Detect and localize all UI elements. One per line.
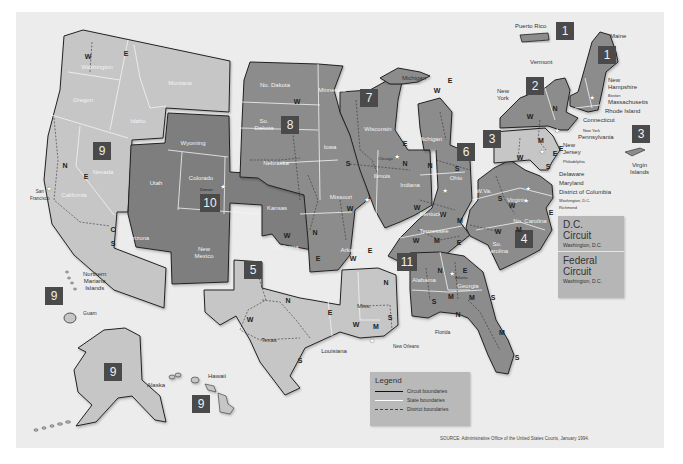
star-cincinnati: ★ <box>442 187 448 195</box>
legend-label-district: District boundaries <box>407 406 448 412</box>
district-marker: W <box>294 98 301 105</box>
state-label-miss: Miss. <box>357 303 371 310</box>
state-label-new-mexico: New Mexico <box>194 246 213 260</box>
district-marker: S <box>546 163 551 170</box>
state-label-california: California <box>61 192 86 199</box>
state-label-tennessee: Tennessee <box>419 228 448 235</box>
legend-row-circuit: Circuit boundaries <box>375 388 470 394</box>
circuit-badge-5[interactable]: 5 <box>244 261 262 279</box>
district-marker: S <box>298 357 303 364</box>
circuit-badge-1-maine[interactable]: 1 <box>598 46 616 64</box>
district-marker: M <box>499 329 505 336</box>
district-marker: S <box>111 240 116 247</box>
circuit-badge-10[interactable]: 10 <box>200 194 220 212</box>
state-label-arizona: Arizona <box>129 235 149 242</box>
district-marker: S <box>346 160 351 167</box>
district-marker: N <box>285 297 290 304</box>
label-northern-mariana: Northern Mariana Islands <box>83 271 106 292</box>
district-marker: W <box>495 228 502 235</box>
dc-circuit[interactable]: D.C. Circuit Washington, D.C. <box>558 216 624 251</box>
state-label-montana: Montana <box>168 80 191 87</box>
label-district-of-columbia: District of Columbia <box>559 189 611 196</box>
district-marker: E <box>84 173 89 180</box>
circuit-5-region <box>204 260 398 395</box>
circuit-badge-8[interactable]: 8 <box>281 116 299 134</box>
district-line-swatch <box>375 409 403 410</box>
label-puerto-rico: Puerto Rico <box>515 23 546 30</box>
puerto-rico-shape <box>520 33 549 42</box>
legend-label-state: State boundaries <box>407 397 445 403</box>
state-label-colorado: Colorado <box>189 175 213 182</box>
district-marker: E <box>553 150 558 157</box>
district-marker: W <box>413 237 420 244</box>
district-marker: W <box>347 205 354 212</box>
state-label-so-dakota: So. Dakota <box>254 118 273 132</box>
state-label-w-va: W.Va. <box>476 188 492 195</box>
label-atlanta: Atlanta <box>455 274 467 281</box>
label-denver: Denver <box>200 186 213 193</box>
label-rhode-island: Rhode Island <box>605 108 640 115</box>
district-marker: E <box>559 145 564 152</box>
district-marker: W <box>517 154 524 161</box>
star-richmond: ★ <box>523 197 529 205</box>
state-label-kansas: Kansas <box>267 205 287 212</box>
circuit-badge-9-alaska[interactable]: 9 <box>104 363 122 381</box>
circuit-badge-2[interactable]: 2 <box>526 77 544 95</box>
district-marker: E <box>368 247 373 254</box>
state-label-minnesota: Minnesota <box>318 87 346 94</box>
state-label-nebraska: Nebraska <box>263 160 289 167</box>
special-circuits-box: D.C. Circuit Washington, D.C. Federal Ci… <box>558 216 624 298</box>
district-marker: S <box>388 314 393 321</box>
circuit-4-region <box>466 160 553 270</box>
state-label-wisconsin: Wisconsin <box>364 126 391 133</box>
state-label-michigan: Michigan <box>418 136 442 143</box>
federal-circuit-location: Washington, D.C. <box>563 278 619 284</box>
district-marker: E <box>463 267 468 274</box>
state-label-no-carolina: No. Carolina <box>513 218 546 225</box>
circuit-badge-9-hawaii[interactable]: 9 <box>192 395 210 413</box>
district-marker: E <box>124 50 129 57</box>
star-washington-dc: ★ <box>525 185 531 193</box>
label-new-hampshire: New Hampshire <box>608 77 637 91</box>
district-marker: E <box>549 209 554 216</box>
federal-circuit-title: Federal Circuit <box>563 255 619 277</box>
guam-shape <box>64 313 76 323</box>
circuit-badge-11[interactable]: 11 <box>397 253 417 271</box>
district-marker: M <box>516 226 522 233</box>
district-marker: M <box>448 293 454 300</box>
circuit-badge-4[interactable]: 4 <box>515 230 533 248</box>
map-legend: Legend Circuit boundaries State boundari… <box>370 372 470 426</box>
label-florida: Florida <box>435 329 450 336</box>
circuit-badge-3-pennsylvania[interactable]: 3 <box>483 130 501 148</box>
label-michigan-upper: Michigan <box>402 75 426 82</box>
district-marker: W <box>434 87 441 94</box>
district-marker: S <box>498 195 503 202</box>
label-boston: Boston <box>608 92 620 99</box>
label-new-york: New York <box>497 88 509 102</box>
district-marker: M <box>434 237 440 244</box>
source-note: SOURCE: Administrative Office of the Uni… <box>440 436 589 441</box>
federal-circuit[interactable]: Federal Circuit Washington, D.C. <box>558 251 624 287</box>
circuit-badge-9-nevada[interactable]: 9 <box>93 142 111 160</box>
label-maryland: Maryland <box>559 180 584 187</box>
circuit-badge-6[interactable]: 6 <box>457 143 475 161</box>
star-boston: ★ <box>589 94 595 102</box>
state-label-missouri: Missouri <box>330 194 352 201</box>
label-hawaii: Hawaii <box>208 373 226 380</box>
state-label-so-carolina: So. Carolina <box>486 241 508 255</box>
district-marker: W <box>284 232 291 239</box>
circuit-badge-7[interactable]: 7 <box>360 89 378 107</box>
aleutian-islands <box>34 421 71 431</box>
label-massachusetts: Massachusetts <box>608 99 648 106</box>
state-label-ohio: Ohio <box>450 175 463 182</box>
district-marker: C <box>110 226 115 233</box>
state-label-oklahoma: Oklahoma <box>271 244 298 251</box>
label-delaware: Delaware <box>559 171 584 178</box>
state-label-idaho: Idaho <box>130 118 145 125</box>
circuit-badge-1-puerto-rico[interactable]: 1 <box>556 22 574 40</box>
district-marker: E <box>457 239 462 246</box>
district-marker: E <box>403 140 408 147</box>
state-label-texas: Texas <box>261 337 277 344</box>
circuit-badge-9-mariana[interactable]: 9 <box>45 287 63 305</box>
circuit-badge-3-virgin-islands[interactable]: 3 <box>632 125 650 143</box>
